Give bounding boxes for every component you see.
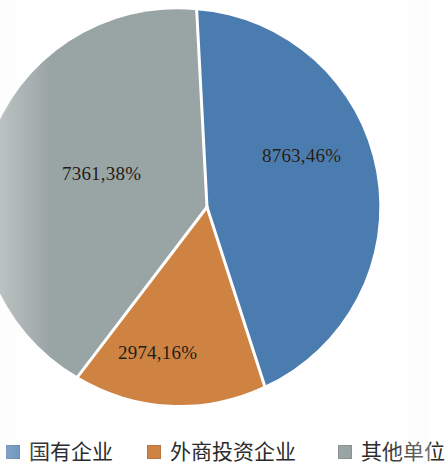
legend-label-other-units: 其他单位 — [361, 442, 445, 463]
legend-item-other-units[interactable]: 其他单位 — [338, 442, 445, 463]
pie-svg — [0, 0, 430, 412]
slice-value-label-foreign-invested: 2974,16% — [118, 342, 197, 364]
legend-item-state-owned[interactable]: 国有企业 — [6, 442, 113, 463]
legend-item-foreign-invested[interactable]: 外商投资企业 — [147, 442, 296, 463]
slice-value-label-other-units: 7361,38% — [62, 163, 141, 185]
pie-plot-area: 8763,46% 7361,38% 2974,16% — [0, 0, 430, 412]
slice-value-label-state-owned: 8763,46% — [262, 145, 341, 167]
legend-label-state-owned: 国有企业 — [29, 442, 113, 463]
legend-swatch-gray-icon — [338, 445, 352, 459]
legend-label-foreign-invested: 外商投资企业 — [170, 442, 296, 463]
legend-swatch-blue-icon — [6, 445, 20, 459]
legend-swatch-orange-icon — [147, 445, 161, 459]
chart-legend: 国有企业 外商投资企业 其他单位 — [0, 440, 430, 464]
